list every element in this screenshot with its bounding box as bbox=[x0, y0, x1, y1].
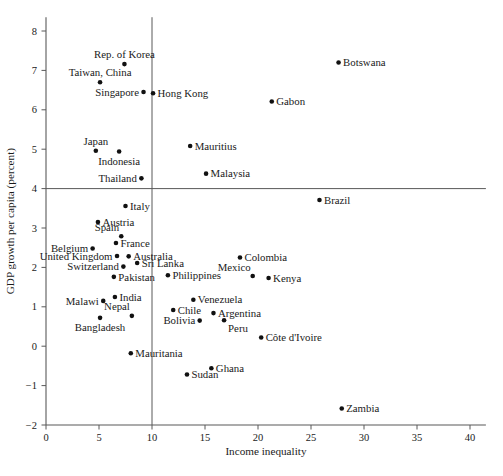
point-marker bbox=[151, 91, 156, 96]
point-label: Brazil bbox=[324, 194, 350, 206]
data-point: Zambia bbox=[339, 402, 379, 414]
y-tick-label-8: 0 bbox=[32, 341, 37, 352]
data-point: Pakistan bbox=[112, 271, 156, 283]
point-label: Italy bbox=[130, 200, 150, 212]
data-point: Mauritius bbox=[188, 140, 237, 152]
point-marker bbox=[98, 80, 103, 85]
data-point: Rep. of Korea bbox=[94, 48, 155, 66]
point-marker bbox=[141, 90, 146, 95]
point-marker bbox=[336, 60, 341, 65]
data-points-layer: Rep. of KoreaTaiwan, ChinaSingaporeHong … bbox=[40, 48, 386, 414]
data-point: Côte d'Ivoire bbox=[259, 331, 322, 343]
point-marker bbox=[269, 99, 274, 104]
data-point: France bbox=[114, 237, 150, 249]
data-point: Sudan bbox=[185, 368, 219, 380]
point-marker bbox=[121, 264, 126, 269]
data-point: Switzerland bbox=[67, 260, 125, 272]
data-point: Brazil bbox=[317, 194, 350, 206]
data-point: Malaysia bbox=[204, 167, 251, 179]
point-marker bbox=[339, 406, 344, 411]
point-marker bbox=[197, 318, 202, 323]
point-label: Zambia bbox=[346, 402, 379, 414]
point-marker bbox=[115, 254, 120, 259]
point-marker bbox=[123, 204, 128, 209]
point-marker bbox=[98, 316, 103, 321]
point-label: Nepal bbox=[104, 300, 130, 312]
y-tick-label-3: 5 bbox=[32, 144, 37, 155]
y-tick-label-4: 4 bbox=[32, 183, 38, 194]
y-tick-label-5: 3 bbox=[32, 223, 37, 234]
point-marker bbox=[250, 274, 255, 279]
point-label: Philippines bbox=[172, 269, 221, 281]
x-tick-label-2: 10 bbox=[147, 432, 158, 443]
point-label: Hong Kong bbox=[158, 87, 209, 99]
point-label: Mauritius bbox=[195, 140, 237, 152]
data-point: Malawi bbox=[66, 295, 106, 307]
data-point: Bolivia bbox=[163, 314, 202, 326]
point-marker bbox=[129, 351, 134, 356]
point-label: Venezuela bbox=[198, 293, 243, 305]
point-marker bbox=[266, 276, 271, 281]
point-marker bbox=[171, 308, 176, 313]
point-marker bbox=[204, 171, 209, 176]
data-point: Mauritania bbox=[129, 347, 183, 359]
point-marker bbox=[211, 311, 216, 316]
point-label: Peru bbox=[228, 322, 248, 334]
point-marker bbox=[135, 261, 140, 266]
y-tick-label-9: −1 bbox=[26, 380, 37, 391]
point-label: France bbox=[120, 237, 150, 249]
point-marker bbox=[117, 149, 122, 154]
x-tick-label-0: 0 bbox=[43, 432, 48, 443]
point-marker bbox=[139, 176, 144, 181]
data-point: Bangladesh bbox=[75, 316, 126, 333]
point-marker bbox=[113, 295, 118, 300]
income-inequality-vs-gdp-growth-scatter: 876543210−1−20510152025303540 Rep. of Ko… bbox=[0, 0, 503, 476]
y-tick-label-7: 1 bbox=[32, 301, 37, 312]
y-tick-label-6: 2 bbox=[32, 262, 37, 273]
point-label: Colombia bbox=[244, 251, 287, 263]
point-label: Malaysia bbox=[211, 167, 251, 179]
point-label: Malawi bbox=[66, 295, 99, 307]
point-label: Kenya bbox=[273, 272, 301, 284]
point-marker bbox=[130, 314, 135, 319]
point-label: Taiwan, China bbox=[69, 66, 132, 78]
point-label: Côte d'Ivoire bbox=[266, 331, 322, 343]
point-marker bbox=[112, 275, 117, 280]
point-marker bbox=[114, 241, 119, 246]
point-label: Mauritania bbox=[135, 347, 183, 359]
data-point: Japan bbox=[84, 135, 109, 153]
point-label: Bolivia bbox=[163, 314, 195, 326]
data-point: Italy bbox=[123, 200, 150, 212]
point-marker bbox=[222, 318, 227, 323]
point-marker bbox=[166, 273, 171, 278]
y-tick-label-0: 8 bbox=[32, 26, 37, 37]
x-tick-label-3: 15 bbox=[200, 432, 211, 443]
data-point: Peru bbox=[222, 318, 249, 334]
point-label: Mexico bbox=[218, 261, 251, 273]
data-point: Thailand bbox=[99, 172, 144, 184]
point-marker bbox=[209, 366, 214, 371]
tick-labels-layer: 876543210−1−20510152025303540 bbox=[26, 26, 475, 443]
data-point: Spain bbox=[95, 221, 124, 239]
point-marker bbox=[259, 335, 264, 340]
data-point: Gabon bbox=[269, 95, 305, 107]
x-tick-label-6: 30 bbox=[359, 432, 370, 443]
point-label: Switzerland bbox=[67, 260, 119, 272]
data-point: Botswana bbox=[336, 56, 386, 68]
point-label: Japan bbox=[84, 135, 109, 147]
data-point: Singapore bbox=[95, 86, 146, 98]
point-label: Indonesia bbox=[98, 155, 140, 167]
data-point: Indonesia bbox=[98, 149, 140, 166]
point-marker bbox=[191, 297, 196, 302]
point-label: Singapore bbox=[95, 86, 139, 98]
data-point: Kenya bbox=[266, 272, 301, 284]
point-label: Bangladesh bbox=[75, 321, 126, 333]
y-tick-label-10: −2 bbox=[26, 420, 37, 431]
y-tick-label-2: 6 bbox=[32, 104, 37, 115]
point-marker bbox=[317, 198, 322, 203]
data-point: Mexico bbox=[218, 261, 255, 279]
point-label: Pakistan bbox=[118, 271, 155, 283]
point-label: Thailand bbox=[99, 172, 138, 184]
y-tick-label-1: 7 bbox=[32, 65, 37, 76]
point-marker bbox=[238, 255, 243, 260]
